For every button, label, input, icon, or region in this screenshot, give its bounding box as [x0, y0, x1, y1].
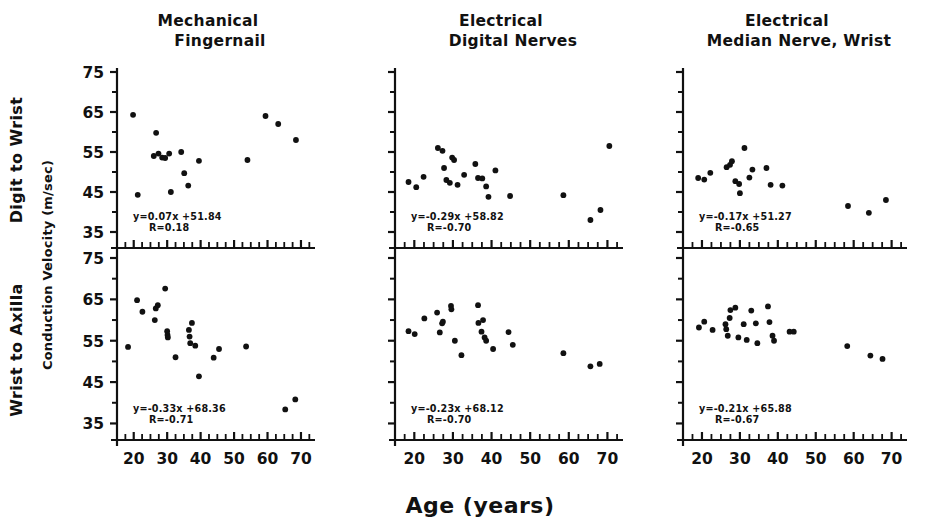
data-point [736, 181, 742, 187]
column-title-line1-2: Electrical [745, 12, 829, 30]
y-tick-label-row1-35: 35 [82, 415, 104, 433]
data-point [162, 155, 168, 161]
fit-correlation-panel-top-right: R=-0.65 [715, 222, 759, 233]
data-point [867, 353, 873, 359]
data-point [560, 192, 566, 198]
data-point [243, 344, 249, 350]
data-point [768, 182, 774, 188]
x-tick-label-col2-60: 60 [843, 450, 865, 468]
data-point [448, 306, 454, 312]
data-point [166, 151, 172, 157]
x-tick-label-col2-20: 20 [691, 450, 713, 468]
data-point [866, 210, 872, 216]
data-point [434, 310, 440, 316]
data-point [178, 149, 184, 155]
column-title-line1-0: Mechanical [158, 12, 259, 30]
data-point [479, 329, 485, 335]
x-tick-label-col2-30: 30 [729, 450, 751, 468]
fit-correlation-panel-bottom-middle: R=-0.70 [427, 414, 472, 425]
figure-canvas: y=0.07x +51.84R=0.18y=-0.29x +58.82R=-0.… [0, 0, 932, 530]
x-axis-title: Age (years) [405, 493, 554, 518]
data-point [135, 192, 141, 198]
y-tick-label-row0-75: 75 [82, 64, 104, 82]
data-point [767, 319, 773, 325]
data-point [588, 217, 594, 223]
data-point [597, 361, 603, 367]
data-point [696, 325, 702, 331]
data-point [483, 338, 489, 344]
x-tick-label-col0-20: 20 [123, 450, 145, 468]
data-point [735, 335, 741, 341]
y-tick-label-row1-65: 65 [82, 291, 104, 309]
data-point [282, 406, 288, 412]
y-axis-title: Conduction Velocity (m/sec) [40, 160, 55, 370]
data-point [187, 340, 193, 346]
data-point [162, 286, 168, 292]
fit-correlation-panel-bottom-left: R=-0.71 [149, 414, 194, 425]
y-tick-label-row0-55: 55 [82, 144, 104, 162]
data-point [406, 328, 412, 334]
data-point [192, 343, 198, 349]
data-point [447, 180, 453, 186]
data-point [245, 157, 251, 163]
data-point [412, 331, 418, 337]
data-point [196, 373, 202, 379]
x-tick-label-col0-60: 60 [257, 450, 279, 468]
data-point [152, 317, 158, 323]
y-tick-label-row0-65: 65 [82, 104, 104, 122]
data-point [486, 194, 492, 200]
y-tick-label-row1-55: 55 [82, 333, 104, 351]
data-point [742, 145, 748, 151]
fit-equation-panel-top-middle: y=-0.29x +58.82 [411, 211, 504, 222]
data-point [130, 112, 136, 118]
fit-correlation-panel-top-middle: R=-0.70 [427, 222, 472, 233]
data-point [186, 327, 192, 333]
data-point [275, 121, 281, 127]
data-point [196, 158, 202, 164]
data-point [153, 130, 159, 136]
fit-correlation-panel-bottom-right: R=-0.67 [715, 414, 759, 425]
x-tick-label-col1-40: 40 [481, 450, 503, 468]
x-tick-label-col1-30: 30 [442, 450, 464, 468]
data-point [764, 165, 770, 171]
data-point [189, 320, 195, 326]
data-point [779, 183, 785, 189]
fit-equation-panel-bottom-left: y=-0.33x +68.36 [133, 403, 226, 414]
y-tick-label-row1-75: 75 [82, 250, 104, 268]
data-point [710, 327, 716, 333]
fit-equation-panel-bottom-right: y=-0.21x +65.88 [699, 403, 792, 414]
data-point [729, 158, 735, 164]
data-point [844, 343, 850, 349]
data-point [770, 333, 776, 339]
data-point [606, 143, 612, 149]
data-point [845, 203, 851, 209]
column-title-line2-0: Fingernail [174, 32, 265, 50]
data-point [723, 326, 729, 332]
data-point [701, 319, 707, 325]
fit-equation-panel-top-right: y=-0.17x +51.27 [699, 211, 792, 222]
data-point [506, 329, 512, 335]
data-point [588, 363, 594, 369]
row-label-wrist-to-axilla: Wrist to Axilla [7, 283, 26, 417]
data-point [737, 190, 743, 196]
data-point [480, 317, 486, 323]
data-point [441, 165, 447, 171]
data-point [263, 113, 269, 119]
column-title-line2-2: Median Nerve, Wrist [707, 32, 892, 50]
data-point [753, 320, 759, 326]
data-point [748, 308, 754, 314]
x-tick-label-col1-60: 60 [558, 450, 580, 468]
fit-equation-panel-top-left: y=0.07x +51.84 [133, 211, 222, 222]
data-point [406, 179, 412, 185]
column-title-line2-1: Digital Nerves [449, 32, 577, 50]
data-point [728, 307, 734, 313]
column-title-line1-1: Electrical [459, 12, 543, 30]
data-point [727, 315, 733, 321]
x-tick-label-col2-70: 70 [881, 450, 903, 468]
data-point [741, 321, 747, 327]
data-point [292, 397, 298, 403]
x-tick-label-col0-40: 40 [190, 450, 212, 468]
data-point [883, 197, 889, 203]
data-point [750, 167, 756, 173]
data-point [440, 319, 446, 325]
